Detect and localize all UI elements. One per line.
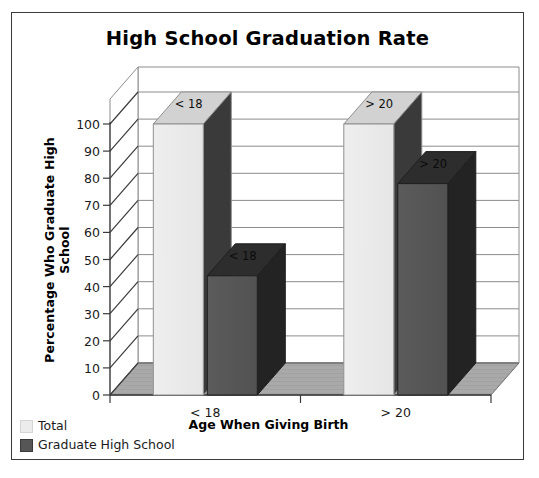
bar-total-0-front	[153, 124, 203, 395]
y-tick-label-70: 70	[58, 198, 100, 213]
bar-graduate-high-school-1-side	[448, 152, 476, 395]
y-tick-label-20: 20	[58, 333, 100, 348]
y-tick-label-100: 100	[58, 117, 100, 132]
plot-side-wall	[110, 67, 138, 395]
bar-graduate-high-school-1-label: > 20	[419, 157, 447, 171]
y-tick-label-60: 60	[58, 225, 100, 240]
legend-item-1[interactable]: Graduate High School	[20, 436, 175, 454]
plot-area: 0102030405060708090100 < 18> 20 < 18< 18…	[12, 13, 525, 461]
y-tick-label-40: 40	[58, 279, 100, 294]
legend-swatch-1	[20, 439, 33, 452]
chart-legend: TotalGraduate High School	[20, 417, 175, 455]
bar-total-1-front	[344, 124, 394, 395]
legend-label-1: Graduate High School	[38, 439, 175, 452]
y-tick-label-30: 30	[58, 306, 100, 321]
legend-item-0[interactable]: Total	[20, 417, 175, 435]
legend-swatch-0	[20, 420, 33, 433]
chart-frame: High School Graduation Rate Percentage W…	[11, 12, 524, 460]
bar-total-0-label: < 18	[175, 97, 203, 111]
bar-graduate-high-school-1-front	[398, 184, 448, 395]
bar-total-1-label: > 20	[365, 97, 393, 111]
y-tick-label-80: 80	[58, 171, 100, 186]
bar-graduate-high-school-0-label: < 18	[229, 249, 257, 263]
y-tick-label-50: 50	[58, 252, 100, 267]
y-tick-label-10: 10	[58, 360, 100, 375]
bar-graduate-high-school-0-front	[207, 276, 257, 395]
y-tick-label-0: 0	[58, 388, 100, 403]
legend-label-0: Total	[38, 420, 67, 433]
y-tick-label-90: 90	[58, 144, 100, 159]
